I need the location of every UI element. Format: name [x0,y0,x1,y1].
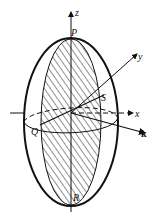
ellipsoid-diagram: z P y S x Q k R [0,0,155,216]
point-q-label: Q [31,127,38,137]
y-axis-label: y [138,52,142,62]
x-axis-label: x [135,109,139,119]
point-s-label: S [101,93,106,103]
point-r-label: R [73,193,79,203]
k-vector-label: k [141,129,147,139]
z-axis-label: z [75,8,79,18]
point-p-label: P [71,28,77,38]
diagram-canvas [0,0,155,216]
